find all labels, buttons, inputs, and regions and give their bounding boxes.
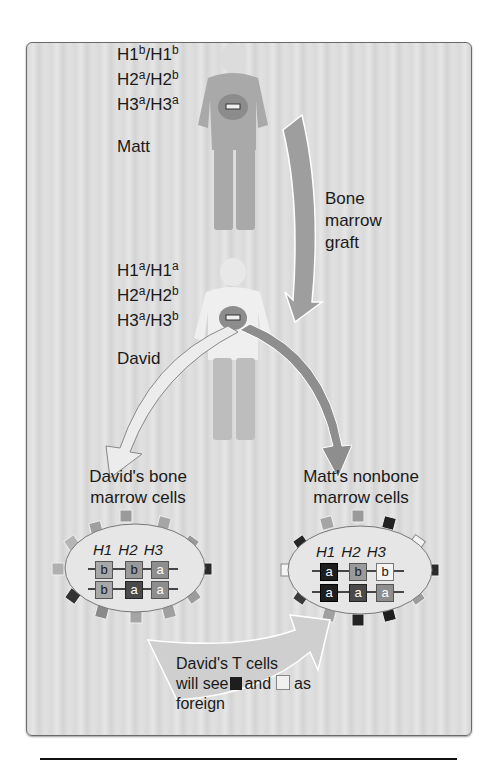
matt-genotype: H1b/H1b H2a/H2b H3a/H3a — [117, 42, 179, 117]
david-cell-loci: H1 H2 H3 — [93, 541, 163, 558]
allele-box: a — [320, 584, 338, 602]
matt-genotype-h3: H3a/H3a — [117, 92, 179, 117]
allele-box: b — [95, 581, 113, 599]
allele-box: b — [376, 563, 394, 581]
matt-cells-title: Matt's nonbone marrow cells — [286, 466, 436, 508]
matt-cell-loci: H1 H2 H3 — [316, 543, 386, 560]
david-genotype-h3: H3a/H3b — [117, 308, 179, 333]
matt-genotype-h2: H2a/H2b — [117, 67, 179, 92]
allele-box: a — [349, 584, 367, 602]
matt-name: Matt — [117, 137, 150, 157]
allele-box: a — [376, 584, 394, 602]
david-name: David — [117, 349, 160, 369]
david-genotype-h1: H1a/H1a — [117, 258, 179, 283]
foreign-light-square-icon — [276, 675, 290, 690]
david-cells-title: David's bone marrow cells — [68, 466, 208, 508]
foreign-dark-square-icon — [230, 677, 242, 690]
allele-box: b — [349, 563, 367, 581]
allele-box: a — [151, 561, 169, 579]
graft-arrow-icon — [283, 115, 322, 322]
illustration-layer — [0, 0, 492, 768]
graft-label: Bone marrow graft — [325, 188, 382, 254]
david-genotype-h2: H2a/H2b — [117, 283, 179, 308]
david-genotype: H1a/H1a H2a/H2b H3a/H3b — [117, 258, 179, 333]
allele-box: a — [320, 563, 338, 581]
allele-box: a — [151, 581, 169, 599]
allele-box: b — [95, 561, 113, 579]
callout-text: David's T cells will seeand as foreign — [176, 654, 311, 714]
allele-box: b — [125, 561, 143, 579]
bottom-rule — [40, 758, 457, 760]
matt-genotype-h1: H1b/H1b — [117, 42, 179, 67]
matt-figure-icon — [198, 44, 268, 230]
allele-box: a — [125, 581, 143, 599]
